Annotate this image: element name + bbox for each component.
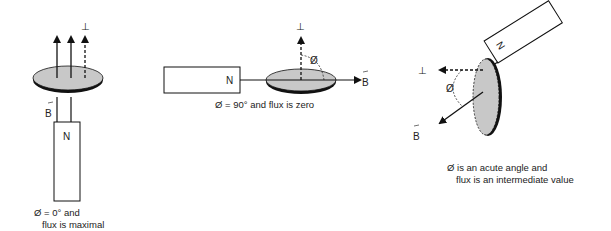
- normal-symbol: ⊥: [418, 65, 427, 76]
- magnet-pole-label: N: [226, 75, 233, 86]
- coil-disc: [33, 66, 103, 90]
- magnet-pole-label: N: [63, 131, 70, 142]
- caption-maximal-line1: Ø = 0° and: [34, 207, 80, 219]
- caption-intermediate-line1: Ø is an acute angle and: [447, 162, 547, 174]
- angle-arc: [453, 70, 462, 106]
- field-label: B: [362, 77, 369, 88]
- field-label: B: [413, 131, 420, 142]
- panel-intermediate: N ⊥ Ø B: [413, 1, 562, 142]
- panel-maximal: ⊥ B N: [33, 21, 103, 201]
- bar-magnet: [484, 1, 562, 63]
- normal-symbol: ⊥: [296, 21, 305, 32]
- caption-zero: Ø = 90° and flux is zero: [215, 99, 314, 111]
- flux-diagram: ⊥ B N ⊥ Ø B N N ⊥ Ø B: [0, 0, 611, 231]
- angle-label: Ø: [310, 55, 318, 66]
- caption-maximal-line2: flux is maximal: [42, 219, 104, 231]
- field-label: B: [45, 108, 52, 119]
- angle-label: Ø: [446, 83, 454, 94]
- caption-intermediate-line2: flux is an intermediate value: [456, 174, 574, 186]
- panel-zero: ⊥ Ø B N: [164, 21, 369, 94]
- normal-symbol: ⊥: [81, 21, 90, 32]
